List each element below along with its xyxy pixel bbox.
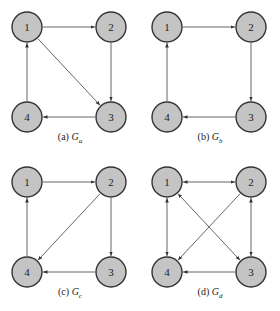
node-2: 2 (236, 12, 266, 42)
graph-c-canvas: 1234 (0, 155, 140, 290)
node-1: 1 (152, 167, 182, 197)
caption-symbol: G (212, 131, 219, 142)
graph-panel-a: 1234 (a) Ga (0, 0, 140, 155)
caption-symbol: G (212, 286, 219, 297)
caption-subscript: a (79, 137, 83, 145)
caption-subscript: c (79, 292, 82, 300)
node-3: 3 (236, 257, 266, 287)
svg-text:4: 4 (24, 266, 30, 278)
node-1: 1 (152, 12, 182, 42)
graph-c-caption: (c) Gc (0, 286, 140, 300)
node-1: 1 (12, 167, 42, 197)
node-2: 2 (96, 12, 126, 42)
svg-text:1: 1 (164, 176, 170, 188)
node-4: 4 (12, 102, 42, 132)
svg-text:4: 4 (164, 111, 170, 123)
graph-panel-d: 1234 (d) Gd (140, 155, 280, 310)
node-4: 4 (12, 257, 42, 287)
svg-text:2: 2 (248, 176, 254, 188)
caption-symbol: G (72, 286, 79, 297)
caption-subscript: b (219, 137, 223, 145)
svg-text:3: 3 (248, 111, 254, 123)
node-4: 4 (152, 257, 182, 287)
graph-a-caption: (a) Ga (0, 131, 140, 145)
caption-prefix: (b) (198, 131, 210, 142)
graph-d-caption: (d) Gd (140, 286, 280, 300)
caption-prefix: (d) (198, 286, 210, 297)
edge-2-4 (38, 194, 100, 261)
graph-panel-b: 1234 (b) Gb (140, 0, 280, 155)
caption-symbol: G (71, 131, 78, 142)
svg-text:2: 2 (108, 21, 114, 33)
node-3: 3 (96, 102, 126, 132)
svg-text:3: 3 (108, 266, 114, 278)
svg-text:2: 2 (248, 21, 254, 33)
node-4: 4 (152, 102, 182, 132)
graph-panel-c: 1234 (c) Gc (0, 155, 140, 310)
graph-a-canvas: 1234 (0, 0, 140, 135)
svg-text:1: 1 (164, 21, 170, 33)
svg-text:2: 2 (108, 176, 114, 188)
graph-b-caption: (b) Gb (140, 131, 280, 145)
node-2: 2 (236, 167, 266, 197)
graph-b-canvas: 1234 (140, 0, 280, 135)
node-2: 2 (96, 167, 126, 197)
svg-text:1: 1 (24, 176, 30, 188)
caption-prefix: (a) (58, 131, 69, 142)
node-3: 3 (96, 257, 126, 287)
caption-subscript: d (219, 292, 223, 300)
node-3: 3 (236, 102, 266, 132)
node-1: 1 (12, 12, 42, 42)
svg-text:3: 3 (248, 266, 254, 278)
svg-text:4: 4 (164, 266, 170, 278)
svg-text:3: 3 (108, 111, 114, 123)
svg-text:4: 4 (24, 111, 30, 123)
edge-1-3 (38, 39, 100, 106)
svg-text:1: 1 (24, 21, 30, 33)
caption-prefix: (c) (58, 286, 69, 297)
graph-d-canvas: 1234 (140, 155, 280, 290)
